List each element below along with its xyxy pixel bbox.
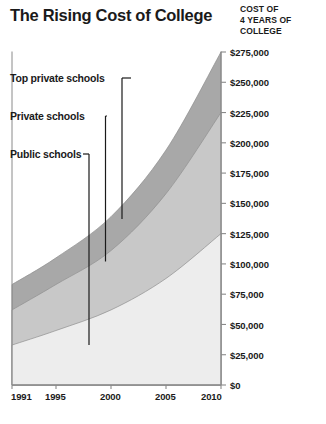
- y-axis-tick-label: $275,000: [230, 47, 269, 58]
- y-axis-tick-label: $175,000: [230, 168, 269, 179]
- y-axis-tick-label: $0: [230, 380, 240, 391]
- y-axis-tick-label: $25,000: [230, 349, 264, 360]
- annotation-label-private-schools: Private schools: [10, 110, 85, 122]
- y-axis-tick-label: $100,000: [230, 258, 269, 269]
- area-bands-group: [12, 52, 221, 385]
- y-axis-tick-label: $225,000: [230, 107, 269, 118]
- y-axis-tick-label: $250,000: [230, 77, 269, 88]
- chart-container: The Rising Cost of College COST OF 4 YEA…: [0, 0, 326, 424]
- plot-area: [0, 0, 326, 424]
- y-axis-tick-label: $50,000: [230, 319, 264, 330]
- y-axis-tick-label: $75,000: [230, 289, 264, 300]
- y-axis-tick-label: $200,000: [230, 137, 269, 148]
- y-axis-tick-label: $150,000: [230, 198, 269, 209]
- x-axis-tick-label: 2010: [201, 391, 222, 402]
- x-axis-tick-label: 2005: [155, 391, 176, 402]
- x-axis-tick-label: 1991: [11, 391, 32, 402]
- x-axis-tick-label: 2000: [100, 391, 121, 402]
- annotation-label-top-private-schools: Top private schools: [10, 72, 105, 84]
- x-axis-tick-label: 1995: [45, 391, 66, 402]
- y-axis-tick-label: $125,000: [230, 228, 269, 239]
- annotation-label-public-schools: Public schools: [10, 148, 81, 160]
